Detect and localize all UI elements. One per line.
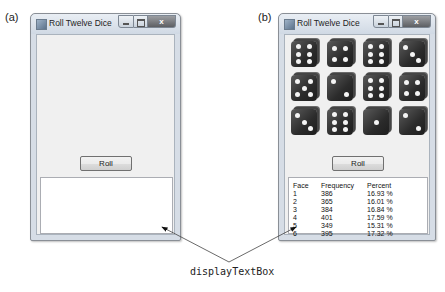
callout-label: displayTextBox: [190, 266, 274, 277]
callout-arrows: [0, 0, 445, 292]
